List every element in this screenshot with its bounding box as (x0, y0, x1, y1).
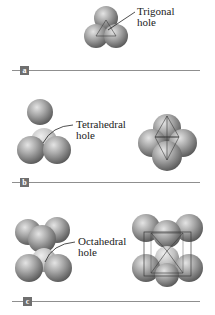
trigonal-hole-diagram (84, 6, 135, 48)
trigonal-label: Trigonal hole (137, 6, 175, 28)
octahedral-hole-diagram (15, 217, 75, 282)
trigonal-label-line2: hole (137, 17, 175, 28)
octahedral-label: Octahedral hole (78, 236, 126, 258)
octahedral-model (132, 214, 203, 287)
panel-c-badge: c (23, 297, 32, 306)
tetrahedral-hole-diagram (17, 99, 73, 164)
panel-b-divider (12, 182, 200, 183)
panel-b-badge: b (20, 178, 29, 187)
octahedral-label-line2: hole (78, 247, 126, 258)
panel-a-badge: a (20, 66, 29, 75)
tetrahedral-label-line2: hole (76, 130, 126, 141)
figure-canvas (0, 0, 215, 315)
tetrahedral-label: Tetrahedral hole (76, 119, 126, 141)
panel-c-divider (12, 301, 200, 302)
panel-a-divider (12, 70, 200, 71)
tetrahedral-model (138, 114, 197, 171)
